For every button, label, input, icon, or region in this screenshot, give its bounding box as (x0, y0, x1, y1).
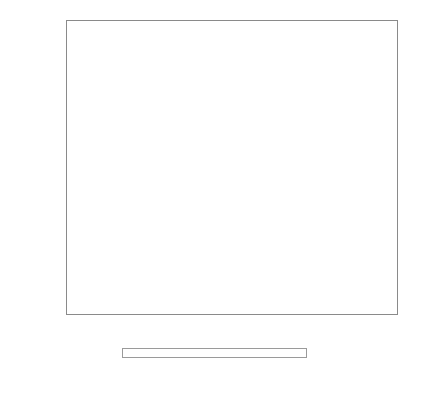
chart-legend (122, 348, 307, 358)
plot-area (66, 20, 398, 315)
data-point-layer (67, 21, 397, 314)
chart-figure (0, 0, 428, 401)
